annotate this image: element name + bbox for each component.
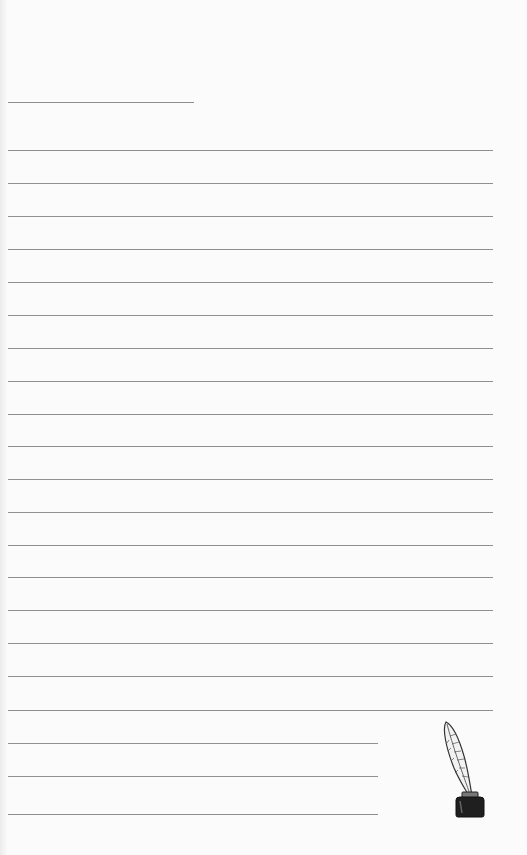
writing-line: [8, 776, 378, 777]
writing-line: [8, 249, 493, 250]
page-edge-shadow: [0, 0, 8, 855]
writing-line: [8, 348, 493, 349]
writing-line: [8, 102, 194, 103]
quill-and-inkwell-icon: [440, 718, 490, 818]
writing-line: [8, 643, 493, 644]
writing-line: [8, 150, 493, 151]
writing-line: [8, 577, 493, 578]
writing-line: [8, 446, 493, 447]
writing-line: [8, 216, 493, 217]
writing-line: [8, 479, 493, 480]
writing-line: [8, 743, 378, 744]
writing-line: [8, 814, 378, 815]
writing-line: [8, 545, 493, 546]
writing-line: [8, 512, 493, 513]
writing-line: [8, 315, 493, 316]
writing-line: [8, 282, 493, 283]
writing-line: [8, 381, 493, 382]
writing-line: [8, 676, 493, 677]
writing-line: [8, 710, 493, 711]
writing-line: [8, 183, 493, 184]
writing-line: [8, 414, 493, 415]
writing-line: [8, 610, 493, 611]
